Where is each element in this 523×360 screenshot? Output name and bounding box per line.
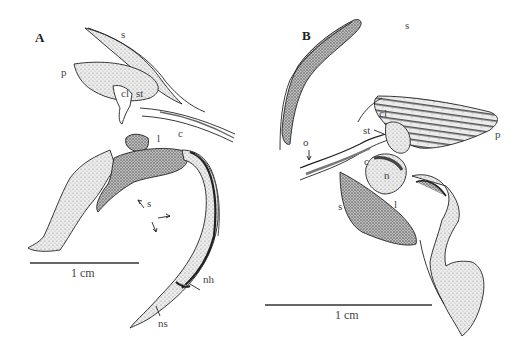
label-b-column: c xyxy=(364,156,369,167)
label-b-nectary: n xyxy=(384,170,390,181)
label-b-ovary: o xyxy=(303,137,309,148)
label-a-stigma: st xyxy=(136,88,143,99)
label-b-sepal-top: s xyxy=(405,20,409,31)
label-b-clinandrium: cl xyxy=(379,108,387,119)
label-a-petal: p xyxy=(61,67,67,78)
label-a-column: c xyxy=(178,128,183,139)
label-a-sepal-arrows: s xyxy=(147,198,151,209)
label-b-lip: l xyxy=(394,199,397,210)
label-b-petal: p xyxy=(495,129,501,140)
label-a-nectary-spur: ns xyxy=(158,318,168,329)
label-b-sepal-lower: s xyxy=(338,201,342,212)
label-a-lip: l xyxy=(157,133,160,144)
panel-a-letter: A xyxy=(35,30,44,46)
label-a-clinandrium: cl xyxy=(121,88,129,99)
scale-bar-b-text: 1 cm xyxy=(335,308,359,323)
label-a-nectary-hairs: nh xyxy=(203,274,214,285)
scale-bar-a-text: 1 cm xyxy=(71,266,95,281)
label-a-sepal-top: s xyxy=(121,29,125,40)
orchid-flower-section-figure: A B s p cl st l c s nh ns 1 cm s cl st p… xyxy=(0,0,523,360)
illustration-canvas xyxy=(0,0,523,360)
panel-b-letter: B xyxy=(302,28,311,44)
label-b-stigma: st xyxy=(363,125,370,136)
